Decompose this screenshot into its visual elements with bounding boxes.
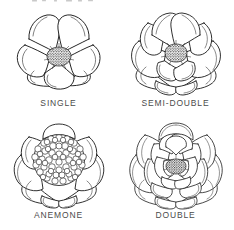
flower-label-double: DOUBLE <box>155 210 195 220</box>
flower-label-semi-double: SEMI-DOUBLE <box>142 98 210 108</box>
anemone-flower-icon <box>9 119 109 211</box>
semi-double-flower-icon <box>126 7 226 99</box>
double-flower-icon <box>126 119 226 211</box>
flower-cell-semi-double: SEMI-DOUBLE <box>117 0 234 115</box>
flower-label-anemone: ANEMONE <box>34 210 83 220</box>
single-flower-icon <box>9 7 109 99</box>
flower-forms-figure: SINGLE <box>0 0 234 229</box>
flower-label-single: SINGLE <box>40 98 76 108</box>
flower-cell-anemone: ANEMONE <box>0 115 117 230</box>
flower-cell-single: SINGLE <box>0 0 117 115</box>
flower-cell-double: DOUBLE <box>117 115 234 230</box>
flower-forms-grid: SINGLE <box>0 0 234 229</box>
